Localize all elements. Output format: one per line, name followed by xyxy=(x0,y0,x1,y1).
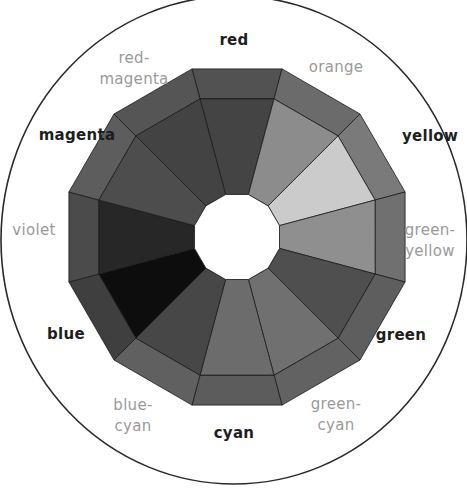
label-red-magenta: red-magenta xyxy=(99,48,168,90)
label-line: yellow xyxy=(405,241,456,262)
label-line: cyan xyxy=(311,415,362,436)
label-line: red- xyxy=(99,48,168,69)
label-cyan: cyan xyxy=(214,423,255,444)
label-green-yellow: green-yellow xyxy=(405,220,456,262)
label-line: green xyxy=(376,325,427,346)
center-hole xyxy=(195,195,280,280)
segment-outer-violet xyxy=(69,192,99,282)
label-line: magenta xyxy=(39,125,116,146)
label-red: red xyxy=(219,30,248,51)
label-line: yellow xyxy=(402,126,458,147)
label-blue: blue xyxy=(47,324,85,345)
segment-outer-cyan xyxy=(192,375,282,405)
label-line: green- xyxy=(405,220,456,241)
label-magenta: magenta xyxy=(39,125,116,146)
label-line: blue xyxy=(47,324,85,345)
label-orange: orange xyxy=(309,57,364,78)
label-green-cyan: green-cyan xyxy=(311,394,362,436)
segment-outer-green-yellow xyxy=(375,192,405,282)
label-line: cyan xyxy=(214,423,255,444)
label-violet: violet xyxy=(12,220,55,241)
label-blue-cyan: blue-cyan xyxy=(113,395,152,437)
label-line: orange xyxy=(309,57,364,78)
label-line: green- xyxy=(311,394,362,415)
label-line: cyan xyxy=(113,416,152,437)
label-line: red xyxy=(219,30,248,51)
label-yellow: yellow xyxy=(402,126,458,147)
label-green: green xyxy=(376,325,427,346)
segment-outer-red xyxy=(192,69,282,99)
label-line: blue- xyxy=(113,395,152,416)
label-line: magenta xyxy=(99,69,168,90)
label-line: violet xyxy=(12,220,55,241)
